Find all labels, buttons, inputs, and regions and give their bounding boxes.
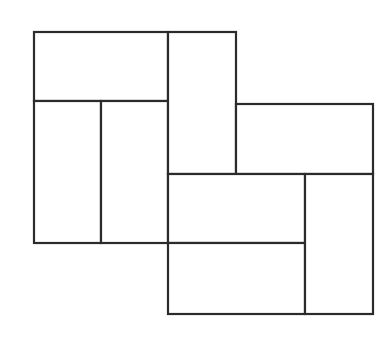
tile-left-lower-left — [34, 101, 101, 243]
tile-right-upper-wide — [236, 104, 373, 174]
rectangle-tiling-diagram — [0, 0, 386, 337]
tile-center-bottom-wide — [168, 243, 305, 314]
tile-center-middle-wide — [168, 174, 305, 243]
tile-right-lower-tall — [305, 174, 373, 314]
tile-center-tall — [168, 32, 236, 174]
tile-left-lower-right — [101, 101, 168, 243]
tile-top-left-wide — [34, 32, 168, 101]
